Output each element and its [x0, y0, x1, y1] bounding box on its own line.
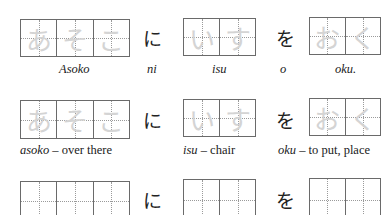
trace-kana: あ — [21, 20, 56, 56]
trace-kana: こ — [94, 20, 129, 56]
trace-kana: く — [346, 18, 381, 54]
label-oku: oku. — [335, 62, 356, 77]
particle-o: を — [276, 24, 295, 51]
trace-kana: あ — [21, 101, 56, 138]
practice-cell[interactable]: そ — [57, 101, 93, 138]
practice-cell[interactable] — [94, 182, 129, 215]
practice-cell[interactable]: い — [184, 19, 220, 55]
trace-kana: そ — [57, 20, 92, 56]
practice-cell[interactable]: く — [346, 99, 381, 135]
practice-box-blank-2 — [309, 178, 381, 215]
practice-box-asoko: あ そ こ — [20, 19, 130, 57]
practice-cell[interactable]: す — [220, 100, 255, 136]
practice-box-oku: お く — [309, 17, 381, 55]
practice-cell[interactable]: く — [346, 18, 381, 54]
practice-cell[interactable]: お — [310, 99, 346, 135]
trace-kana: す — [220, 100, 255, 136]
practice-box-blank-3 — [20, 181, 130, 215]
trace-kana: こ — [94, 101, 129, 138]
trace-kana: く — [346, 99, 381, 135]
trace-kana: お — [310, 18, 345, 54]
practice-cell[interactable] — [346, 179, 381, 215]
practice-cell[interactable]: お — [310, 18, 346, 54]
practice-cell[interactable]: こ — [94, 20, 129, 56]
particle-ni: に — [143, 186, 162, 213]
practice-cell[interactable]: そ — [57, 20, 93, 56]
practice-cell[interactable]: す — [220, 19, 255, 55]
trace-kana: す — [220, 19, 255, 55]
practice-box-oku: お く — [309, 98, 381, 136]
practice-box-isu: い す — [183, 18, 256, 56]
practice-box-isu: い す — [183, 99, 256, 137]
practice-cell[interactable]: あ — [21, 20, 57, 56]
trace-kana: い — [184, 100, 219, 136]
trace-kana: そ — [57, 101, 92, 138]
practice-cell[interactable] — [21, 182, 57, 215]
practice-cell[interactable]: い — [184, 100, 220, 136]
trace-kana: い — [184, 19, 219, 55]
trace-kana: お — [310, 99, 345, 135]
practice-cell[interactable]: あ — [21, 101, 57, 138]
label-asoko: Asoko — [59, 62, 90, 77]
label-o: o — [280, 62, 286, 77]
label-isu-meaning: isu – chair — [183, 143, 235, 158]
particle-ni: に — [143, 24, 162, 51]
practice-cell[interactable] — [184, 180, 220, 215]
particle-o: を — [276, 106, 295, 133]
practice-cell[interactable] — [310, 179, 346, 215]
label-asoko-meaning: asoko – over there — [20, 143, 112, 158]
particle-o: を — [276, 186, 295, 213]
practice-box-asoko: あ そ こ — [20, 100, 130, 139]
practice-box-blank-2 — [183, 179, 256, 215]
label-isu: isu — [212, 62, 227, 77]
practice-cell[interactable]: こ — [94, 101, 129, 138]
particle-ni: に — [143, 106, 162, 133]
practice-cell[interactable] — [57, 182, 93, 215]
label-oku-meaning: oku – to put, place — [278, 143, 370, 158]
label-ni: ni — [147, 62, 157, 77]
practice-cell[interactable] — [220, 180, 255, 215]
